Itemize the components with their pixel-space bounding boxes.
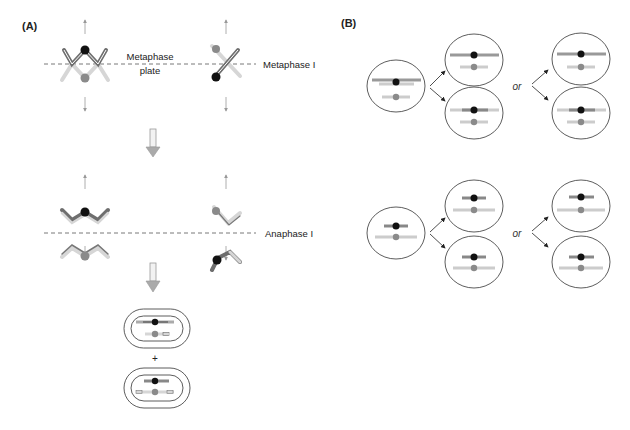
- bivalent-right-metaphase: [212, 45, 241, 82]
- daughter-cell-top-a2: [445, 87, 503, 139]
- daughter-cell-top-b1: [552, 33, 610, 85]
- progression-arrow-2: [146, 263, 160, 292]
- daughter-cell-2: [124, 368, 190, 408]
- division-arrows-top-1: [430, 71, 445, 101]
- daughter-cell-top-b2: [552, 87, 610, 139]
- daughter-cell-bottom-a1: [445, 180, 503, 232]
- chromosome-right-upper-anaphase: [212, 207, 240, 225]
- division-arrows-top-2: [532, 70, 548, 100]
- panel-a-label: (A): [22, 20, 38, 32]
- daughter-cell-bottom-b1: [552, 180, 610, 232]
- or-label-bottom: or: [513, 228, 523, 239]
- centromere-black: [81, 46, 90, 55]
- daughter-cell-bottom-b2: [552, 236, 610, 288]
- daughter-cell-bottom-a2: [445, 236, 503, 288]
- parent-cell-top: [367, 60, 425, 112]
- or-label-top: or: [513, 81, 523, 92]
- meiosis-diagram: (A) Metaphase plate Metaphase I: [0, 0, 630, 430]
- chromosome-left-upper-anaphase: [62, 208, 108, 224]
- daughter-cell-top-a1: [445, 34, 503, 86]
- panel-b-label: (B): [341, 17, 357, 29]
- centromere-black: [212, 73, 221, 82]
- division-arrows-bottom-2: [532, 217, 548, 247]
- centromere-gray: [81, 74, 90, 83]
- metaphase-i-label: Metaphase I: [263, 59, 315, 70]
- metaphase-plate-label: Metaphase: [126, 51, 173, 62]
- parent-cell-bottom: [367, 207, 425, 259]
- daughter-cell-1: [124, 309, 190, 348]
- anaphase-i-label: Anaphase I: [265, 228, 313, 239]
- metaphase-plate-label-2: plate: [140, 65, 161, 76]
- chromosome-right-lower-anaphase: [212, 252, 240, 270]
- plus-sign: +: [152, 353, 158, 364]
- progression-arrow-1: [146, 129, 160, 157]
- centromere-gray: [212, 45, 220, 53]
- spindle-arrows-anaphase: [85, 175, 226, 260]
- division-arrows-bottom-1: [430, 218, 445, 248]
